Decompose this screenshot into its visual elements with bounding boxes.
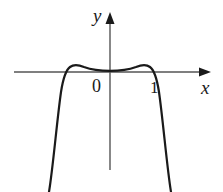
origin-label: 0: [92, 77, 101, 95]
x-tick-one-label: 1: [150, 79, 159, 96]
figure-background: [0, 0, 223, 192]
graph-figure: y x 0 1: [0, 0, 223, 192]
x-axis-label: x: [201, 78, 209, 97]
plot-canvas: [0, 0, 223, 192]
y-axis-label: y: [93, 6, 101, 25]
